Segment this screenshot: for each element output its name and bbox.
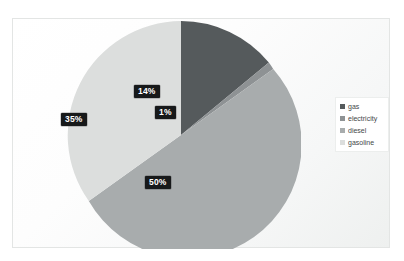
chart-legend: gas electricity diesel gasoline: [335, 97, 389, 152]
legend-label-diesel: diesel: [348, 127, 366, 134]
pie-slices-svg: [65, 21, 301, 249]
legend-swatch-icon-gas: [340, 104, 345, 109]
legend-label-gas: gas: [348, 103, 359, 110]
chart-plot-area: 14% 1% 50% 35% gas electricity diesel ga…: [12, 18, 390, 248]
legend-item-diesel[interactable]: diesel: [340, 127, 383, 134]
pie-chart: 14% 1% 50% 35% gas electricity diesel ga…: [13, 19, 391, 249]
legend-label-gasoline: gasoline: [348, 139, 374, 146]
legend-swatch-icon-diesel: [340, 128, 345, 133]
legend-swatch-icon-gasoline: [340, 140, 345, 145]
pie-label-gas: 14%: [134, 85, 160, 98]
legend-item-electricity[interactable]: electricity: [340, 115, 383, 122]
pie-label-electricity: 1%: [155, 106, 176, 119]
legend-item-gas[interactable]: gas: [340, 103, 383, 110]
legend-item-gasoline[interactable]: gasoline: [340, 139, 383, 146]
pie-label-gasoline: 35%: [61, 113, 87, 126]
pie-label-diesel: 50%: [145, 176, 171, 189]
legend-swatch-icon-electricity: [340, 116, 345, 121]
legend-label-electricity: electricity: [348, 115, 377, 122]
pie-group: [68, 21, 301, 249]
